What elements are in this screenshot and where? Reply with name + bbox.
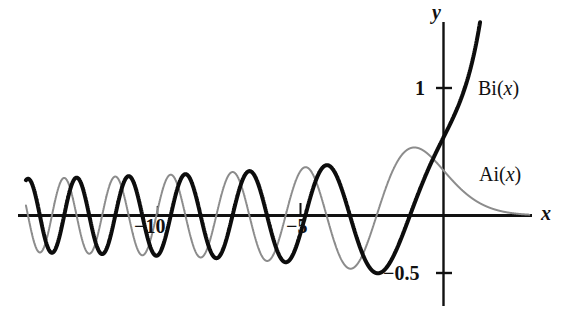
airy-functions-figure: y x 1 −0.5 −5 −10 Bi(x) Ai(x) — [0, 0, 570, 322]
airy-plot-svg — [0, 0, 570, 322]
bi-label-text: Bi( — [478, 77, 504, 99]
ai-label-variable: x — [506, 163, 515, 185]
y-axis-label: y — [432, 2, 441, 22]
ai-label-text: Ai( — [479, 163, 506, 185]
y-tick-label-1: 1 — [415, 78, 425, 98]
bi-label-paren: ) — [512, 77, 519, 99]
bi-curve-label: Bi(x) — [478, 78, 519, 98]
ai-curve-label: Ai(x) — [479, 164, 521, 184]
x-axis-label: x — [541, 203, 551, 223]
y-tick-label-minus-0point5: −0.5 — [383, 263, 419, 283]
x-tick-label-minus-10: −10 — [134, 216, 165, 236]
ai-label-paren: ) — [515, 163, 522, 185]
x-tick-label-minus-5: −5 — [286, 216, 307, 236]
